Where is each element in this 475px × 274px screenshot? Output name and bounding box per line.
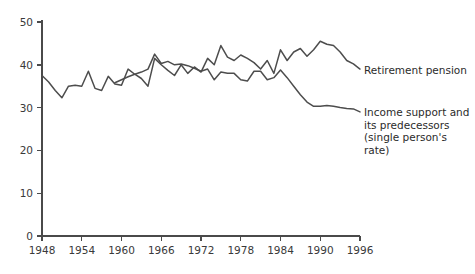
- x-tick-label: 1966: [148, 244, 175, 256]
- x-tick-label: 1954: [68, 244, 95, 256]
- x-tick-label: 1996: [347, 244, 374, 256]
- y-axis-ticks: 01020304050: [20, 16, 42, 242]
- series-line-retirement-pension: [42, 41, 360, 98]
- x-tick-label: 1960: [108, 244, 135, 256]
- legend-label-income-support: Income support and its predecessors (sin…: [364, 106, 475, 156]
- y-tick-label: 50: [20, 16, 33, 28]
- x-tick-label: 1948: [29, 244, 56, 256]
- x-tick-label: 1978: [227, 244, 254, 256]
- y-tick-label: 40: [20, 59, 33, 71]
- series-line-income-support: [115, 54, 360, 112]
- chart-container: 01020304050 1948195419601966197219781984…: [0, 0, 475, 274]
- x-tick-label: 1984: [267, 244, 294, 256]
- y-tick-label: 20: [20, 144, 33, 156]
- y-tick-label: 10: [20, 187, 33, 199]
- legend-label-retirement-pension: Retirement pension: [364, 64, 467, 77]
- y-tick-label: 0: [26, 230, 33, 242]
- y-tick-label: 30: [20, 102, 33, 114]
- x-axis-ticks: 194819541960196619721978198419901996: [29, 236, 374, 256]
- x-tick-label: 1972: [188, 244, 215, 256]
- x-tick-label: 1990: [307, 244, 334, 256]
